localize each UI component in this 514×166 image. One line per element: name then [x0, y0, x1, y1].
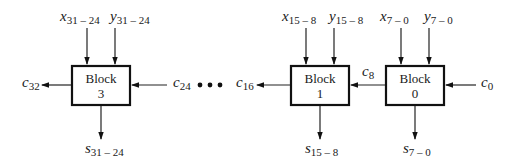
block-3: Block 3: [72, 66, 130, 105]
block-1: Block 1: [291, 66, 349, 105]
y15-8-label: y15 – 8: [327, 8, 364, 26]
c0-label: c0: [481, 74, 494, 92]
block-0: Block 0: [386, 66, 444, 105]
x15-8-label: x15 – 8: [281, 8, 317, 26]
c24-label: c24: [173, 74, 191, 92]
c16-label: c16: [236, 74, 254, 92]
s31-24-label: s31 – 24: [85, 140, 124, 158]
block-3-number: 3: [98, 86, 105, 101]
x31-24-label: x31 – 24: [59, 8, 100, 26]
block-3-label: Block: [85, 71, 117, 86]
c32-label: c32: [22, 74, 40, 92]
x7-0-label: x7 – 0: [379, 8, 409, 26]
block-0-number: 0: [412, 86, 419, 101]
y7-0-label: y7 – 0: [422, 8, 453, 26]
ellipsis-dots: [198, 83, 223, 88]
s7-0-label: s7 – 0: [403, 140, 431, 158]
carry-chain-diagram: Block 3 x31 – 24 y31 – 24 s31 – 24 c32 c…: [0, 0, 514, 166]
block-1-label: Block: [304, 71, 336, 86]
s15-8-label: s15 – 8: [305, 140, 339, 158]
block-0-label: Block: [399, 71, 431, 86]
c8-label: c8: [362, 63, 375, 81]
y31-24-label: y31 – 24: [108, 8, 150, 26]
block-1-number: 1: [317, 86, 324, 101]
